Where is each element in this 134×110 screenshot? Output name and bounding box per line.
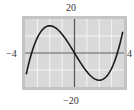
function-plot [0,0,134,110]
